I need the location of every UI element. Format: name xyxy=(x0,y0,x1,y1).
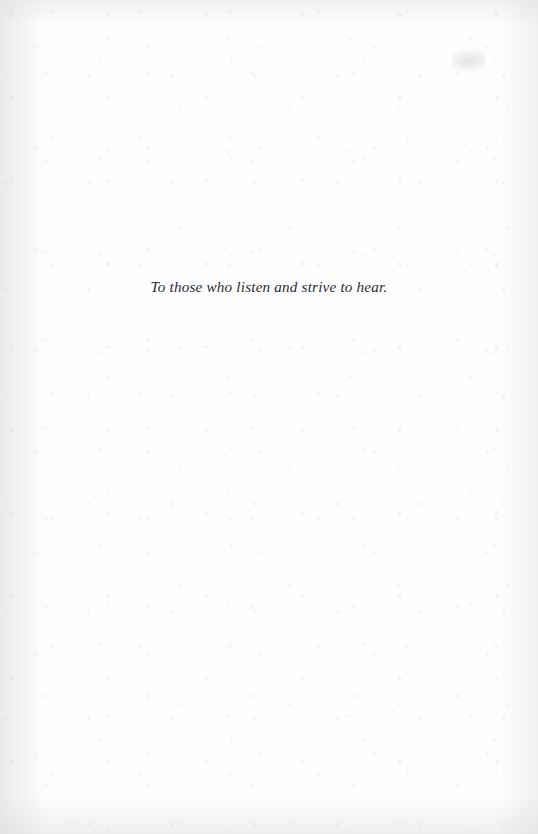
page-edge-shading-bottom xyxy=(0,794,538,834)
dedication-block: To those who listen and strive to hear. xyxy=(0,277,538,298)
page-edge-shading-right xyxy=(498,0,538,834)
page-edge-shading-left xyxy=(0,0,46,834)
scan-smudge-artifact xyxy=(452,49,486,73)
dedication-page: To those who listen and strive to hear. xyxy=(0,0,538,834)
page-edge-shading-top xyxy=(0,0,538,26)
dedication-text: To those who listen and strive to hear. xyxy=(151,277,388,298)
paper-grain-texture xyxy=(0,0,538,834)
